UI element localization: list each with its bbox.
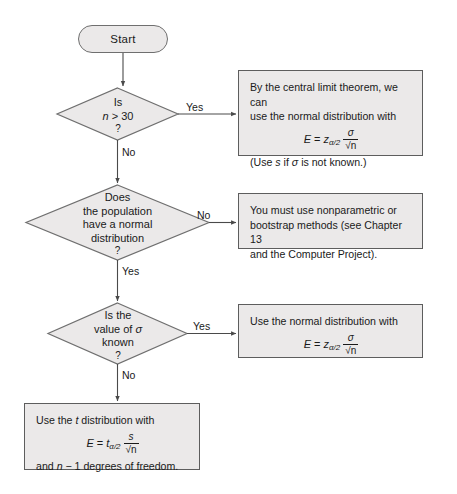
decision2-yes-label: Yes <box>122 265 139 277</box>
box3-formula-numerator: σ <box>343 333 358 344</box>
decision1-no-label: No <box>122 146 135 158</box>
box4-line1: Use the t distribution with <box>36 413 189 428</box>
decision2-no-label: No <box>197 209 210 221</box>
box4-note-c: − 1 degrees of freedom. <box>63 460 179 472</box>
box4-note-a: and <box>36 460 57 472</box>
box1-note-e: is not known.) <box>298 156 366 168</box>
box1-formula-E: E <box>304 132 311 144</box>
box1-formula-subscript: α/2 <box>329 138 340 147</box>
box1-note-c: if <box>281 156 292 168</box>
decision3-no-label: No <box>122 369 135 381</box>
box1-formula-denominator: √n <box>343 139 358 152</box>
box4-note: and n − 1 degrees of freedom. <box>36 459 189 474</box>
decision3-diamond <box>48 303 187 364</box>
box4-formula-equals: = <box>94 436 107 448</box>
box3-formula-equals: = <box>311 337 324 349</box>
box3-formula-subscript: α/2 <box>329 343 340 352</box>
box3-normal-distribution: Use the normal distribution with E = zα/… <box>238 304 423 358</box>
box1-note: (Use s if σ is not known.) <box>250 155 412 170</box>
box4-formula-fraction: s√n <box>124 432 139 456</box>
decision3-yes-label: Yes <box>193 320 210 332</box>
box4-formula-numerator: s <box>124 432 139 443</box>
box3-formula-denominator: √n <box>343 344 358 357</box>
box2-nonparametric-methods: You must use nonparametric or bootstrap … <box>238 193 423 249</box>
box1-central-limit-theorem: By the central limit theorem, we can use… <box>238 70 423 156</box>
box1-formula-numerator: σ <box>343 128 358 139</box>
box1-formula-fraction: σ√n <box>343 128 358 152</box>
box3-formula-E: E <box>304 337 311 349</box>
box3-formula: E = zα/2σ√n <box>250 333 412 357</box>
box1-line1: By the central limit theorem, we can <box>250 80 412 109</box>
box1-line2: use the normal distribution with <box>250 109 412 124</box>
box4-formula-denominator: √n <box>124 443 139 456</box>
box4-line1-suffix: distribution with <box>78 414 154 426</box>
decision1-yes-label: Yes <box>186 101 203 113</box>
box2-line1: You must use nonparametric or <box>250 203 412 218</box>
start-label: Start <box>110 33 135 45</box>
box1-note-a: (Use <box>250 156 275 168</box>
start-terminator: Start <box>78 25 168 53</box>
box4-line1-prefix: Use the <box>36 414 75 426</box>
decision2-diamond <box>26 185 209 260</box>
box4-t-distribution: Use the t distribution with E = tα/2s√n … <box>24 403 200 470</box>
box2-line3: and the Computer Project). <box>250 247 412 262</box>
box4-formula: E = tα/2s√n <box>36 432 189 456</box>
box4-formula-subscript: α/2 <box>109 442 120 451</box>
decision1-diamond <box>57 88 178 140</box>
box1-formula: E = zα/2σ√n <box>250 128 412 152</box>
box3-formula-fraction: σ√n <box>343 333 358 357</box>
box3-line1: Use the normal distribution with <box>250 314 412 329</box>
box4-formula-E: E <box>86 436 93 448</box>
box2-line2: bootstrap methods (see Chapter 13 <box>250 218 412 247</box>
box1-formula-equals: = <box>311 132 324 144</box>
